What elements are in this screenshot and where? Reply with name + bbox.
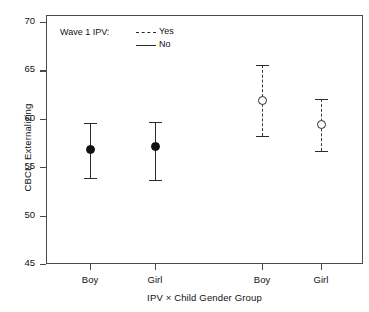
- error-bar-cap-bottom: [315, 151, 328, 152]
- error-bar-cap-top: [256, 65, 269, 66]
- legend-item-no[interactable]: No: [136, 38, 171, 51]
- series-yes: [0, 0, 369, 312]
- x-tick-mark: [155, 264, 156, 270]
- x-tick-mark: [321, 264, 322, 270]
- x-tick-label: Girl: [115, 274, 195, 285]
- data-point-marker[interactable]: [258, 96, 267, 105]
- x-tick-mark: [90, 264, 91, 270]
- legend-title: Wave 1 IPV:: [60, 26, 109, 39]
- error-bar-cap-bottom: [256, 136, 269, 137]
- dashed-line-icon: [136, 29, 156, 35]
- legend-label: No: [159, 39, 171, 49]
- x-tick-label: Girl: [281, 274, 361, 285]
- legend-item-yes[interactable]: Yes: [136, 25, 174, 38]
- error-bar-cap-top: [315, 99, 328, 100]
- solid-line-icon: [136, 42, 156, 48]
- data-point-marker[interactable]: [317, 120, 326, 129]
- x-tick-mark: [262, 264, 263, 270]
- legend-label: Yes: [159, 26, 174, 36]
- chart-figure: CBCL: Externalizing IPV × Child Gender G…: [0, 0, 369, 312]
